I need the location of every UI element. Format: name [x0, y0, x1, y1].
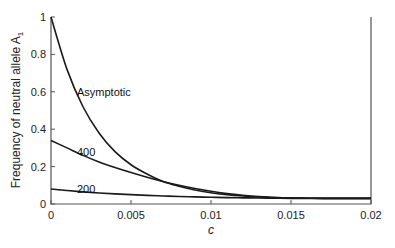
- y-axis-label-main: Frequency of neutral allele A: [9, 36, 23, 188]
- y-axis-label: Frequency of neutral allele A1: [9, 31, 25, 188]
- x-tick-label: 0.015: [277, 209, 305, 221]
- line-chart: 00.0050.010.0150.02 00.20.40.60.81 Asymp…: [0, 0, 395, 248]
- y-tick-label: 0.6: [31, 86, 46, 98]
- x-axis: 00.0050.010.0150.02: [48, 200, 382, 221]
- x-axis-label: c: [208, 223, 214, 237]
- curves: [51, 17, 371, 198]
- y-tick-label: 1: [40, 11, 46, 23]
- curve-label-200: 200: [77, 183, 95, 195]
- curve-400: [51, 140, 371, 198]
- x-tick-label: 0: [48, 209, 54, 221]
- x-tick-label: 0.01: [200, 209, 221, 221]
- x-tick-label: 0.02: [360, 209, 381, 221]
- curve-200: [51, 189, 371, 198]
- y-tick-label: 0.8: [31, 48, 46, 60]
- curve-asymptotic: [51, 17, 371, 198]
- plot-frame: [51, 17, 371, 204]
- y-tick-label: 0.2: [31, 161, 46, 173]
- axes-frame: [51, 17, 371, 204]
- y-tick-label: 0: [40, 198, 46, 210]
- curve-label-400: 400: [77, 146, 95, 158]
- y-tick-label: 0.4: [31, 123, 46, 135]
- y-axis-label-subscript: 1: [16, 31, 25, 36]
- curve-label-asymptotic: Asymptotic: [77, 86, 131, 98]
- x-tick-label: 0.005: [117, 209, 145, 221]
